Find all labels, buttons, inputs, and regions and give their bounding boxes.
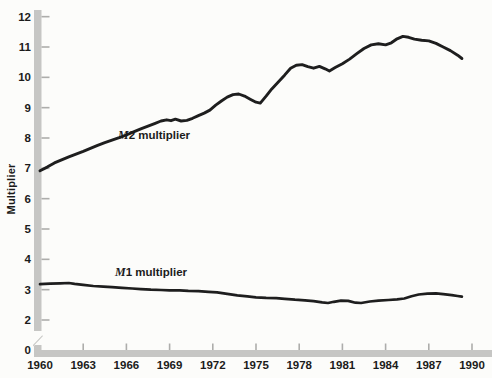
tick-label: 1966 [114, 359, 140, 371]
tick-label: 1978 [286, 359, 312, 371]
m1-label-text: 1 multiplier [126, 266, 187, 278]
m1-label-variable: M [115, 265, 126, 279]
tick-label: 7 [25, 162, 31, 174]
money-multiplier-chart: 1211109876543201960196319661969197219751… [0, 0, 492, 378]
tick-label: 1963 [70, 359, 96, 371]
m2-series-label: M2 multiplier [118, 128, 190, 143]
tick-label: 2 [25, 314, 31, 326]
tick-label: 1975 [243, 359, 269, 371]
m1-curve [40, 283, 462, 303]
y-axis-break-stripe [33, 335, 43, 347]
tick-label: 5 [25, 223, 32, 235]
tick-label: 1987 [416, 359, 442, 371]
tick-label: 1981 [330, 359, 356, 371]
tick-label: 8 [25, 132, 32, 144]
m2-label-variable: M [118, 128, 129, 142]
tick-label: 1969 [157, 359, 183, 371]
tick-label: 11 [19, 41, 32, 53]
y-axis-bar-lower [34, 345, 42, 357]
chart-canvas: 1211109876543201960196319661969197219751… [0, 0, 492, 378]
y-axis-title: Multiplier [5, 154, 17, 224]
tick-label: 1990 [459, 359, 485, 371]
tick-label: 1960 [27, 359, 53, 371]
tick-label: 4 [25, 253, 32, 265]
tick-label: 0 [25, 344, 31, 356]
tick-label: 1972 [200, 359, 226, 371]
tick-label: 3 [25, 284, 31, 296]
tick-label: 1984 [373, 359, 399, 371]
x-axis-bar [34, 350, 492, 357]
m2-label-text: 2 multiplier [129, 129, 190, 141]
tick-label: 12 [18, 11, 31, 23]
m1-series-label: M1 multiplier [115, 265, 187, 280]
tick-label: 6 [25, 193, 31, 205]
tick-label: 9 [25, 102, 31, 114]
m2-curve [40, 36, 462, 170]
tick-label: 10 [18, 71, 31, 83]
